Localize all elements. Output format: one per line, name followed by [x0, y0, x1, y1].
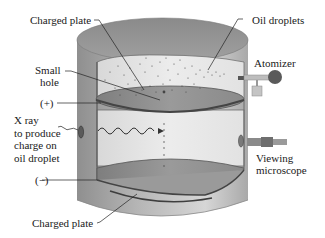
label-xray-line1: X ray	[14, 114, 39, 126]
label-small-hole-line2: hole	[40, 76, 59, 88]
label-positive: (+)	[40, 97, 54, 110]
label-atomizer: Atomizer	[254, 57, 296, 69]
label-negative: (−)	[35, 174, 49, 187]
label-xray-line2: to produce	[14, 127, 61, 139]
label-small-hole-line1: Small	[35, 64, 61, 76]
label-xray-line4: oil droplet	[14, 152, 60, 164]
label-viewing-line1: Viewing	[256, 152, 294, 164]
label-top-charged-plate: Charged plate	[30, 14, 91, 26]
top-charged-plate	[96, 86, 244, 112]
small-hole-marker	[163, 91, 166, 94]
label-oil-droplets: Oil droplets	[252, 14, 304, 26]
label-xray-line3: charge on	[14, 139, 57, 151]
label-bottom-charged-plate: Charged plate	[32, 217, 93, 229]
millikan-oil-drop-diagram: Charged plate Oil droplets Small hole At…	[0, 0, 325, 238]
xray-window	[78, 126, 83, 138]
atomizer-bulb-icon	[268, 70, 282, 84]
label-viewing-line2: microscope	[256, 164, 307, 176]
